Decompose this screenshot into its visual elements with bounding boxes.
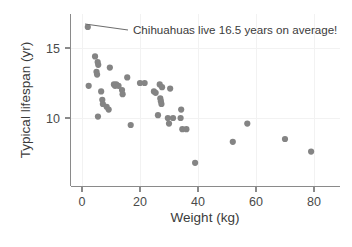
x-tick-label: 40	[191, 195, 205, 209]
x-axis-title: Weight (kg)	[171, 210, 240, 225]
y-axis-title: Typical lifespan (yr)	[18, 42, 33, 158]
data-point	[120, 91, 126, 97]
data-point	[170, 115, 176, 121]
data-point	[128, 122, 134, 128]
data-point	[95, 62, 101, 68]
scatter-chart: 1015 020406080 Typical lifespan (yr) Wei…	[0, 0, 352, 247]
x-tick-label: 60	[249, 195, 263, 209]
x-axis	[71, 187, 341, 193]
data-point	[308, 149, 314, 155]
plot-area: 1015 020406080 Typical lifespan (yr) Wei…	[0, 0, 352, 247]
data-point	[166, 121, 172, 127]
data-point	[124, 74, 130, 80]
data-points	[85, 24, 315, 166]
data-point	[178, 115, 184, 121]
data-point	[94, 72, 100, 78]
data-point	[106, 107, 112, 113]
x-tick-label: 20	[133, 195, 147, 209]
data-point	[183, 126, 189, 132]
data-point	[86, 83, 92, 89]
data-point	[159, 84, 165, 90]
data-point	[153, 90, 159, 96]
y-tick-label: 15	[46, 42, 60, 56]
data-point	[244, 121, 250, 127]
annotation-label: Chihuahuas live 16.5 years on average!	[133, 23, 337, 36]
annotation-chihuahua: Chihuahuas live 16.5 years on average!	[85, 23, 337, 36]
x-tick-labels: 020406080	[79, 195, 321, 209]
data-point	[230, 139, 236, 145]
data-point	[142, 80, 148, 86]
data-point	[158, 101, 164, 107]
data-point	[155, 112, 161, 118]
y-tick-labels: 1015	[46, 42, 60, 126]
x-tick-label: 0	[79, 195, 86, 209]
data-point	[167, 86, 173, 92]
x-tick-label: 80	[307, 195, 321, 209]
data-point	[192, 160, 198, 166]
y-tick-label: 10	[46, 112, 60, 126]
data-point	[178, 107, 184, 113]
gridlines	[71, 14, 340, 186]
data-point	[95, 114, 101, 120]
y-axis	[65, 14, 71, 186]
annotation-leader-line	[85, 24, 128, 30]
data-point	[282, 136, 288, 142]
data-point	[92, 53, 98, 59]
data-point	[98, 88, 104, 94]
data-point	[107, 65, 113, 71]
